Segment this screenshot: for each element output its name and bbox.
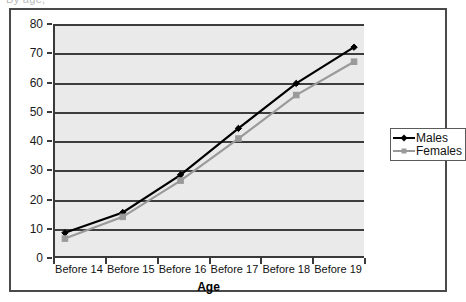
y-axis-tick [47, 169, 52, 171]
legend-item-males[interactable]: Males [393, 131, 462, 144]
x-axis-category-label: Before 15 [107, 264, 155, 275]
legend-label-females: Females [415, 145, 462, 157]
data-point-marker [178, 178, 184, 184]
data-point-marker [62, 236, 68, 242]
y-axis-tick-label: 40 [30, 135, 43, 147]
legend-label-males: Males [415, 132, 448, 144]
x-axis-category-label: Before 17 [211, 264, 259, 275]
data-point-marker [293, 92, 299, 98]
y-axis-tick [47, 199, 52, 201]
x-axis-labels: Before 14Before 15Before 16Before 17Befo… [53, 264, 364, 280]
y-axis-tick-label: 60 [30, 77, 43, 89]
y-axis-tick-label: 50 [30, 106, 43, 118]
y-axis-tick [47, 140, 52, 142]
legend-line-marker-icon [393, 132, 415, 143]
data-point-marker [120, 214, 126, 220]
y-axis-tick-label: 10 [30, 223, 43, 235]
x-axis-category-label: Before 14 [55, 264, 103, 275]
y-axis-tick-label: 80 [30, 18, 43, 30]
y-axis-tick-label: 0 [36, 252, 43, 264]
y-axis-tick [47, 52, 52, 54]
y-axis-tick-label: 20 [30, 194, 43, 206]
x-axis-category-label: Before 18 [262, 264, 310, 275]
x-axis-title: Age [53, 280, 364, 294]
data-point-marker [351, 59, 357, 65]
x-axis-tick [364, 258, 366, 264]
y-axis-tick [47, 257, 52, 259]
x-axis-category-label: Before 16 [159, 264, 207, 275]
chart-inner: 01020304050607080 Before 14Before 15Befo… [11, 10, 445, 290]
y-axis-tick [47, 111, 52, 113]
clipped-header-text: By age, [6, 0, 45, 5]
y-axis-labels: 01020304050607080 [11, 24, 47, 258]
series-layer [55, 24, 364, 256]
y-axis-tick [47, 23, 52, 25]
y-axis-tick-label: 70 [30, 47, 43, 59]
series-line-females [65, 62, 354, 239]
chart-legend: Males Females [390, 128, 466, 161]
series-line-males [65, 47, 354, 233]
plot-area [53, 24, 364, 258]
legend-line-marker-icon [393, 145, 415, 156]
chart-frame: 01020304050607080 Before 14Before 15Befo… [9, 8, 447, 292]
y-axis-tick [47, 82, 52, 84]
x-axis-category-label: Before 19 [314, 264, 362, 275]
legend-item-females[interactable]: Females [393, 144, 462, 157]
data-point-marker [62, 230, 68, 236]
data-point-marker [236, 136, 242, 142]
y-axis-tick [47, 228, 52, 230]
y-axis-tick-label: 30 [30, 164, 43, 176]
